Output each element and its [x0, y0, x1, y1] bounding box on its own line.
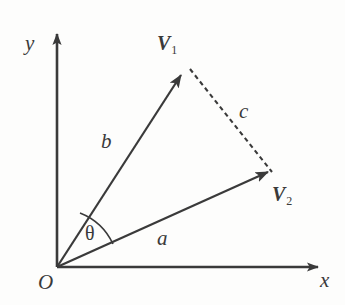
vector-v1-label: V1 — [157, 33, 176, 53]
connector-c-dashed-line — [190, 69, 272, 172]
side-label-c: c — [239, 101, 248, 122]
angle-theta-label: θ — [85, 223, 95, 243]
side-label-b: b — [101, 131, 112, 152]
vector-v2-subscript: 2 — [286, 194, 292, 208]
vector-v2-letter: V — [272, 183, 285, 205]
vector-v2-label: V2 — [272, 184, 291, 204]
vector-v1-subscript: 1 — [171, 43, 177, 57]
origin-label: O — [38, 272, 53, 293]
vector-v1-letter: V — [157, 32, 170, 54]
vector-diagram-figure: y x O b a c θ V1 V2 — [0, 0, 345, 305]
y-axis-label: y — [25, 33, 34, 54]
x-axis-label: x — [320, 270, 329, 291]
side-label-a: a — [157, 228, 168, 249]
